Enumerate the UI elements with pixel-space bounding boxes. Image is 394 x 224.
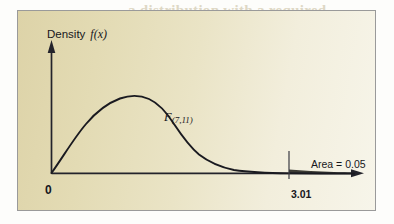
figure-panel: Densityf(x) 0 F(7,11) Area = 0.05 3.01 x (17, 10, 376, 211)
density-curve (52, 96, 355, 174)
scanned-page-background: a distribution with a required Populatio… (0, 0, 394, 224)
critical-value-label: 3.01 (291, 188, 311, 200)
curve-label: F(7,11) (164, 110, 193, 125)
origin-label: 0 (45, 183, 52, 197)
curve-label-subscript: (7,11) (172, 115, 193, 125)
curve-label-base: F (164, 110, 172, 124)
y-axis-label-text: Density (47, 28, 85, 40)
area-annotation: Area = 0.05 (311, 158, 366, 170)
y-axis-label: Densityf(x) (47, 27, 107, 42)
y-axis-label-function: f(x) (90, 27, 107, 41)
